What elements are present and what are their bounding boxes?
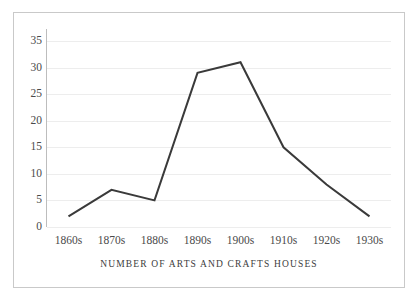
y-axis-tick-labels: 05101520253035 — [14, 41, 42, 227]
x-tick-label: 1890s — [184, 235, 211, 247]
y-tick-label: 5 — [16, 195, 42, 207]
line-series — [47, 41, 391, 227]
series-polyline — [69, 62, 370, 216]
y-tick-label: 30 — [16, 62, 42, 74]
y-tick-label: 35 — [16, 35, 42, 47]
y-tick-label: 0 — [16, 221, 42, 233]
x-tick-label: 1860s — [55, 235, 82, 247]
x-tick-label: 1930s — [356, 235, 383, 247]
x-tick-label: 1880s — [141, 235, 168, 247]
gridline — [47, 227, 391, 228]
chart-axis-title: NUMBER OF ARTS AND CRAFTS HOUSES — [14, 259, 404, 269]
y-tick-label: 15 — [16, 142, 42, 154]
x-tick-label: 1870s — [98, 235, 125, 247]
y-tick-label: 10 — [16, 168, 42, 180]
plot-area — [47, 41, 391, 227]
y-tick-label: 25 — [16, 88, 42, 100]
x-axis-tick-labels: 1860s1870s1880s1890s1900s1910s1920s1930s — [47, 235, 391, 251]
x-tick-label: 1910s — [270, 235, 297, 247]
x-tick-label: 1920s — [313, 235, 340, 247]
y-tick-label: 20 — [16, 115, 42, 127]
chart-figure: 05101520253035 1860s1870s1880s1890s1900s… — [13, 12, 405, 288]
x-tick-label: 1900s — [227, 235, 254, 247]
